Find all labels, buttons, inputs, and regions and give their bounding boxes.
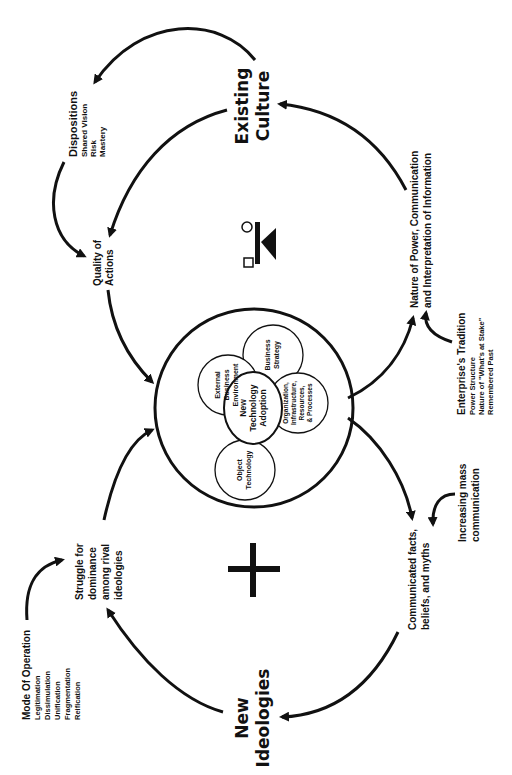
svg-text:Business: Business — [223, 369, 230, 400]
svg-text:Risk: Risk — [89, 140, 98, 157]
svg-text:ideologies: ideologies — [113, 550, 124, 600]
svg-text:Dispositions: Dispositions — [67, 91, 79, 157]
svg-text:Actions: Actions — [104, 249, 115, 286]
svg-text:Strategy: Strategy — [273, 341, 281, 369]
svg-text:Communicated facts,: Communicated facts, — [407, 529, 418, 630]
gender-balance-symbol — [242, 222, 276, 267]
culture-ideology-diagram: Existing Culture New Ideologies Disposit… — [0, 0, 512, 775]
existing-culture-label: Existing Culture — [232, 68, 273, 145]
svg-text:Nature of "What's at Stake": Nature of "What's at Stake" — [477, 317, 486, 415]
svg-text:Shared Vision: Shared Vision — [80, 104, 89, 157]
svg-text:among rival: among rival — [100, 544, 111, 600]
svg-text:Infrastructure,: Infrastructure, — [290, 381, 298, 425]
svg-text:and Interpretation of Informat: and Interpretation of Information — [422, 153, 433, 308]
arrow-center-to-communicated — [348, 418, 412, 518]
svg-text:Organization,: Organization, — [282, 382, 290, 424]
svg-text:dominance: dominance — [87, 547, 98, 600]
communicated-facts-label: Communicated facts, beliefs, and myths — [407, 529, 431, 630]
arrow-quality-to-center — [108, 290, 152, 382]
svg-text:Existing: Existing — [232, 68, 252, 145]
arrow-struggle-to-center — [104, 430, 152, 520]
struggle-label: Struggle for dominance among rival ideol… — [74, 543, 124, 600]
svg-text:Fragmentation: Fragmentation — [63, 667, 72, 720]
svg-text:Technology: Technology — [248, 384, 258, 431]
svg-text:Nature of Power, Communication: Nature of Power, Communication — [409, 151, 420, 308]
svg-text:Reification: Reification — [73, 681, 82, 720]
svg-text:Business: Business — [264, 339, 271, 370]
mode-of-operation-label: Mode Of Operation Legitimation Dissimula… — [21, 630, 82, 720]
arrow-communicated-to-ideologies — [282, 632, 398, 717]
arrow-mass-to-communicated — [433, 494, 455, 524]
svg-text:Dissimulation: Dissimulation — [43, 670, 52, 720]
enterprise-tradition-label: Enterprise's Tradition Power Structure N… — [456, 313, 495, 415]
svg-text:Ideologies: Ideologies — [253, 669, 273, 768]
svg-text:Unification: Unification — [53, 681, 62, 720]
new-ideologies-label: New Ideologies — [232, 669, 273, 768]
arrow-culture-to-quality — [110, 110, 227, 235]
svg-text:Environment: Environment — [232, 363, 239, 406]
svg-text:Mode Of Operation: Mode Of Operation — [21, 630, 32, 720]
quality-of-actions-label: Quality of Actions — [92, 239, 115, 286]
svg-text:New: New — [232, 697, 252, 739]
svg-text:& Processes: & Processes — [306, 383, 313, 422]
arrow-dispositions-to-quality — [54, 162, 84, 256]
svg-text:Adoption: Adoption — [258, 389, 268, 426]
svg-text:Struggle for: Struggle for — [74, 543, 85, 600]
svg-text:beliefs, and myths: beliefs, and myths — [420, 542, 431, 630]
svg-text:Technology: Technology — [245, 451, 253, 490]
svg-text:Resources,: Resources, — [298, 385, 306, 420]
svg-text:Mastery: Mastery — [98, 126, 107, 157]
svg-text:Enterprise's Tradition: Enterprise's Tradition — [456, 313, 467, 415]
svg-text:communication: communication — [470, 468, 481, 542]
arrow-center-to-power — [348, 318, 413, 398]
increasing-mass-communication-label: Increasing mass communication — [457, 463, 481, 542]
arrow-culture-to-dispositions — [95, 29, 255, 82]
svg-text:Remembered Past: Remembered Past — [486, 349, 495, 415]
arrow-mode-to-struggle — [27, 560, 62, 620]
svg-text:External: External — [214, 371, 221, 399]
organization-label: Organization, Infrastructure, Resources,… — [282, 381, 313, 425]
svg-text:Object: Object — [236, 458, 244, 480]
svg-text:Power Structure: Power Structure — [468, 357, 477, 415]
arrow-tradition-to-power — [426, 313, 452, 342]
arrow-power-to-culture — [280, 104, 406, 190]
svg-text:Quality of: Quality of — [92, 239, 103, 286]
dispositions-label: Dispositions Shared Vision Risk Mastery — [67, 91, 107, 157]
nature-of-power-label: Nature of Power, Communication and Inter… — [409, 151, 433, 308]
business-strategy-label: Business Strategy — [264, 339, 281, 370]
svg-text:Legitimation: Legitimation — [33, 675, 42, 720]
svg-text:Increasing mass: Increasing mass — [457, 463, 468, 542]
svg-text:New: New — [238, 399, 248, 417]
plus-symbol — [228, 543, 280, 597]
arrow-ideologies-to-struggle — [108, 610, 223, 712]
svg-text:Culture: Culture — [253, 71, 273, 142]
